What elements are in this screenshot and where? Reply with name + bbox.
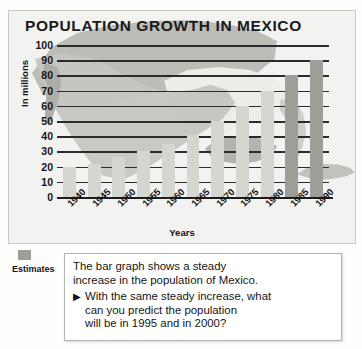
y-tick-label-30: 30	[41, 145, 53, 157]
y-tick-label-50: 50	[41, 115, 53, 127]
bar-1965	[187, 135, 200, 197]
y-axis-label: In millions	[19, 60, 30, 107]
bar-1985	[285, 75, 298, 197]
callout-bullet-body: With the same steady increase, what can …	[85, 290, 271, 331]
bar-series	[57, 45, 329, 197]
legend-swatch-estimates	[18, 250, 31, 260]
triangle-right-icon: ▶	[73, 290, 81, 331]
question-callout: The bar graph shows a steady increase in…	[64, 253, 342, 341]
bar-1960	[162, 144, 175, 197]
bar-1975	[236, 106, 249, 197]
callout-line-2: increase in the population of Mexico.	[73, 274, 332, 288]
plot-area: 1009080706050403020100	[57, 45, 329, 197]
chart-title: POPULATION GROWTH IN MEXICO	[25, 17, 302, 35]
y-tick-label-0: 0	[47, 191, 53, 203]
bar-1970	[211, 121, 224, 197]
y-tick-label-60: 60	[41, 100, 53, 112]
y-tick-label-10: 10	[41, 176, 53, 188]
bar-1955	[137, 151, 150, 197]
y-tick-label-20: 20	[41, 161, 53, 173]
chart-panel: POPULATION GROWTH IN MEXICO In millions …	[8, 10, 356, 244]
callout-bullet: ▶ With the same steady increase, what ca…	[73, 290, 332, 331]
chart-page: POPULATION GROWTH IN MEXICO In millions …	[0, 0, 362, 349]
bar-1980	[261, 91, 274, 197]
y-tick-label-80: 80	[41, 69, 53, 81]
callout-bullet-line-2: can you predict the population	[85, 304, 271, 318]
y-tick-label-90: 90	[41, 54, 53, 66]
y-tick-label-100: 100	[35, 39, 53, 51]
bar-1990	[310, 60, 323, 197]
y-tick-label-70: 70	[41, 85, 53, 97]
x-axis-label: Years	[9, 227, 355, 238]
callout-bullet-line-3: will be in 1995 and in 2000?	[85, 317, 271, 331]
callout-line-1: The bar graph shows a steady	[73, 260, 332, 274]
callout-bullet-line-1: With the same steady increase, what	[85, 290, 271, 304]
y-tick-label-40: 40	[41, 130, 53, 142]
